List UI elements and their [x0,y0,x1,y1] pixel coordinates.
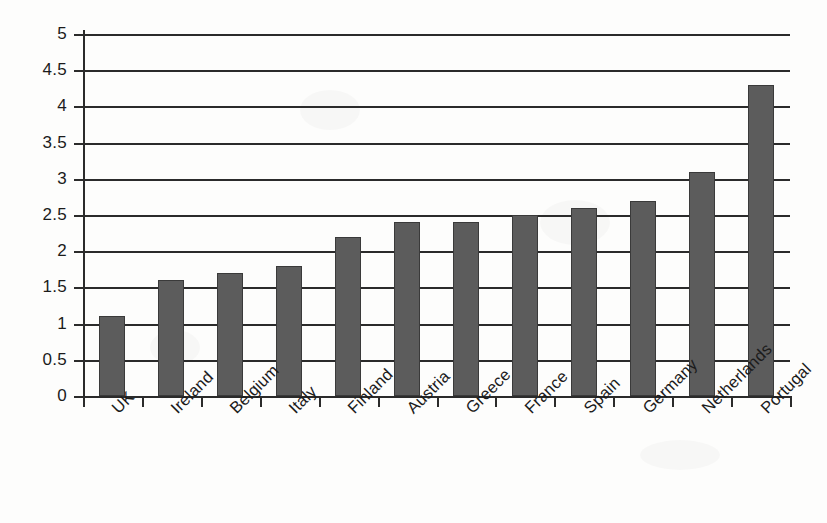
bar [217,273,243,396]
gridline [83,70,790,72]
gridline [83,324,790,326]
gridline [83,179,790,181]
bar [512,215,538,396]
y-axis-tick [74,70,83,72]
bar-chart: 00.511.522.533.544.55 UKIrelandBelgiumIt… [0,0,827,523]
bar [158,280,184,396]
y-axis-tick-label: 3 [57,170,67,187]
y-axis-tick [74,143,83,145]
x-axis-tick [260,396,262,407]
y-axis-tick [74,106,83,108]
x-axis-tick [790,396,792,407]
y-axis-tick [74,287,83,289]
x-axis-tick [142,396,144,407]
y-axis-tick-label: 2.5 [42,206,67,223]
x-axis-tick [83,396,85,407]
gridline [83,215,790,217]
bar [335,237,361,396]
y-axis-tick [74,179,83,181]
bar [99,316,125,396]
bar [276,266,302,396]
x-axis-tick [613,396,615,407]
bar [453,222,479,396]
y-axis-tick-label: 1 [57,315,67,332]
x-axis-tick [731,396,733,407]
x-axis-tick [672,396,674,407]
y-axis-tick-label: 4.5 [42,61,67,78]
y-axis-tick [74,396,83,398]
y-axis-tick-label: 5 [57,25,67,42]
y-axis-tick-label: 0.5 [42,351,67,368]
y-axis-tick-label: 1.5 [42,278,67,295]
y-axis-tick-label: 2 [57,242,67,259]
bar [630,201,656,396]
y-axis-tick [74,215,83,217]
plot-area [83,34,790,396]
gridline [83,287,790,289]
x-axis-tick [495,396,497,407]
y-axis-tick [74,251,83,253]
bar [394,222,420,396]
gridline [83,106,790,108]
bar [571,208,597,396]
x-axis-tick [201,396,203,407]
gridline [83,251,790,253]
x-axis-tick [437,396,439,407]
y-axis-tick [74,34,83,36]
gridline [83,34,790,36]
x-axis-tick [319,396,321,407]
y-axis-tick [74,324,83,326]
x-axis-tick [554,396,556,407]
y-axis-tick [74,360,83,362]
paper-speck [640,440,720,470]
y-axis-tick-label: 4 [57,97,67,114]
x-axis-tick [378,396,380,407]
y-axis-tick-label: 0 [57,387,67,404]
y-axis-tick-label: 3.5 [42,134,67,151]
gridline [83,143,790,145]
